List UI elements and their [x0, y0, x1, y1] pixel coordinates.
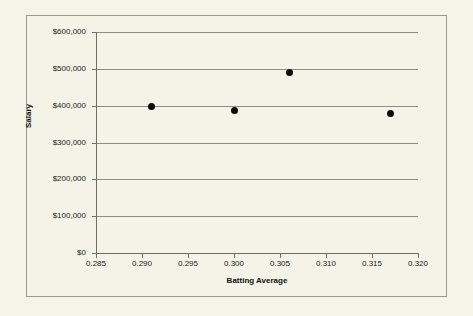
chart-plot-frame [26, 15, 447, 297]
y-axis-tick-label: $200,000 [24, 174, 86, 183]
x-axis-tick-label: 0.285 [73, 259, 119, 268]
data-point [387, 110, 394, 117]
y-axis-tick-mark [92, 143, 96, 144]
x-axis-tick-label: 0.315 [349, 259, 395, 268]
gridline [96, 143, 418, 144]
y-axis-line [96, 32, 97, 254]
x-axis-tick-mark [418, 254, 419, 258]
y-axis-tick-label: $300,000 [24, 138, 86, 147]
y-axis-tick-mark [92, 69, 96, 70]
data-point [231, 107, 238, 114]
x-axis-line [96, 253, 419, 254]
x-axis-tick-label: 0.310 [303, 259, 349, 268]
gridline [96, 216, 418, 217]
y-axis-tick-mark [92, 32, 96, 33]
x-axis-tick-mark [326, 254, 327, 258]
x-axis-tick-mark [188, 254, 189, 258]
x-axis-tick-mark [372, 254, 373, 258]
x-axis-tick-label: 0.300 [211, 259, 257, 268]
gridline [96, 69, 418, 70]
data-point [148, 103, 155, 110]
scatter-chart: $0$100,000$200,000$300,000$400,000$500,0… [0, 0, 473, 316]
y-axis-tick-mark [92, 179, 96, 180]
x-axis-tick-label: 0.295 [165, 259, 211, 268]
gridline [96, 179, 418, 180]
y-axis-tick-label: $0 [24, 248, 86, 257]
y-axis-tick-mark [92, 216, 96, 217]
y-axis-tick-label: $500,000 [24, 64, 86, 73]
y-axis-tick-label: $100,000 [24, 211, 86, 220]
data-point [286, 69, 293, 76]
x-axis-title: Batting Average [96, 276, 418, 285]
y-axis-tick-label: $400,000 [24, 101, 86, 110]
y-axis-tick-label: $600,000 [24, 27, 86, 36]
gridline [96, 32, 418, 33]
x-axis-tick-mark [142, 254, 143, 258]
x-axis-tick-mark [280, 254, 281, 258]
x-axis-tick-label: 0.320 [395, 259, 441, 268]
y-axis-title: Salary [24, 104, 33, 128]
x-axis-tick-label: 0.305 [257, 259, 303, 268]
x-axis-tick-mark [96, 254, 97, 258]
x-axis-tick-mark [234, 254, 235, 258]
x-axis-tick-label: 0.290 [119, 259, 165, 268]
y-axis-tick-mark [92, 106, 96, 107]
gridline [96, 106, 418, 107]
